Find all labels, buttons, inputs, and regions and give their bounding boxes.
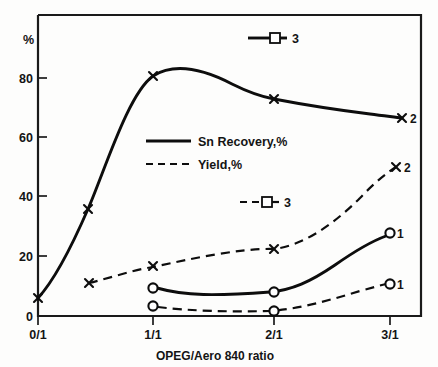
y-axis-label: %: [23, 33, 34, 47]
y-tick-60: 60: [19, 131, 33, 145]
legend-top-label: 3: [292, 32, 299, 46]
x-tick-0-1: 0/1: [29, 328, 46, 342]
series-sn-recovery-2: 2: [34, 69, 417, 302]
square-icon: [262, 197, 272, 207]
series-yield-2-end-label: 2: [404, 161, 411, 175]
legend-middle-label: 3: [284, 196, 291, 210]
y-tick-80: 80: [19, 72, 33, 86]
x-tick-3-1: 3/1: [381, 328, 398, 342]
x-axis-tick-labels: 0/1 1/1 2/1 3/1: [29, 328, 398, 342]
series-sn-recovery-2-line: [38, 69, 402, 298]
series-yield-2: 2: [85, 161, 411, 287]
legend-middle-dashed-square[interactable]: 3: [240, 196, 291, 210]
x-tick-2-1: 2/1: [265, 328, 282, 342]
series-sn-recovery-1-line: [157, 236, 386, 295]
chart-svg: 80 60 40 20 0 % 0/1 1/1 2/1 3/1 OPEG/Aer…: [0, 0, 438, 367]
y-tick-40: 40: [19, 190, 33, 204]
series-sn-recovery-2-end-label: 2: [410, 112, 417, 126]
series-sn-recovery-1: 1: [148, 227, 404, 297]
legend-sn-recovery-label: Sn Recovery,%: [198, 135, 287, 149]
legend-yield-label: Yield,%: [198, 158, 242, 172]
series-yield-1-markers: [148, 279, 394, 315]
y-tick-0: 0: [26, 310, 33, 324]
series-sn-recovery-1-markers: [148, 228, 394, 296]
series-yield-1-end-label: 1: [397, 278, 404, 292]
series-sn-recovery-1-end-label: 1: [397, 227, 404, 241]
x-axis-ticks: [38, 316, 390, 325]
series-sn-recovery-2-markers: [34, 72, 406, 302]
series-yield-2-line: [89, 167, 396, 283]
square-icon: [270, 33, 280, 43]
x-axis-title: OPEG/Aero 840 ratio: [156, 349, 274, 363]
legend-top-solid-square[interactable]: 3: [248, 32, 299, 46]
x-tick-1-1: 1/1: [144, 328, 161, 342]
legend-style-keys[interactable]: Sn Recovery,% Yield,%: [146, 135, 287, 172]
y-axis-tick-labels: 80 60 40 20 0: [19, 72, 33, 324]
chart-figure: 80 60 40 20 0 % 0/1 1/1 2/1 3/1 OPEG/Aer…: [0, 0, 438, 367]
y-tick-20: 20: [19, 250, 33, 264]
y-axis-ticks: [38, 78, 47, 256]
series-yield-2-markers: [85, 163, 400, 287]
